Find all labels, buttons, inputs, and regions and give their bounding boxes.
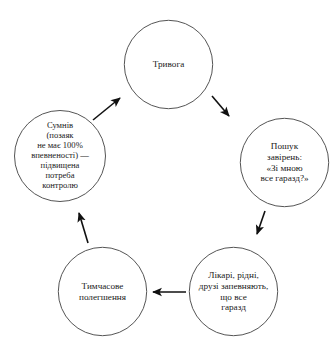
node-doubt-label: Сумнів (позаяк не має 100% впевненості) … xyxy=(27,121,93,191)
cycle-diagram: Тривога Пошук завірень: «Зі мною все гар… xyxy=(0,0,336,348)
node-temporary-relief-label: Тимчасове полегшення xyxy=(75,281,130,302)
node-others-reassure: Лікарі, рідні, друзі запевняють, що все … xyxy=(189,247,278,336)
node-doubt: Сумнів (позаяк не має 100% впевненості) … xyxy=(14,110,106,202)
node-reassurance-seeking-label: Пошук завірень: «Зі мною все гаразд?» xyxy=(256,141,312,184)
node-anxiety-label: Тривога xyxy=(149,59,189,70)
arrow-reassurance-seeking-to-others-reassure xyxy=(257,211,265,234)
node-reassurance-seeking: Пошук завірень: «Зі мною все гаразд?» xyxy=(240,118,329,207)
node-temporary-relief: Тимчасове полегшення xyxy=(58,247,147,336)
node-anxiety: Тривога xyxy=(124,20,213,109)
arrow-anxiety-to-reassurance-seeking xyxy=(212,96,229,116)
arrow-doubt-to-anxiety xyxy=(93,98,120,120)
node-others-reassure-label: Лікарі, рідні, друзі запевняють, що все … xyxy=(195,270,273,313)
arrow-temporary-relief-to-doubt xyxy=(79,213,88,243)
